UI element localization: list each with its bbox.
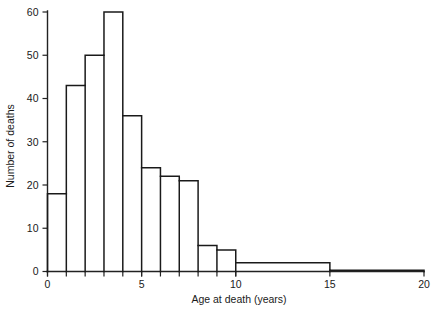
y-tick-label: 50 bbox=[27, 49, 39, 61]
x-tick-label: 15 bbox=[324, 278, 336, 290]
y-axis-title: Number of deaths bbox=[4, 104, 16, 187]
histogram-bars bbox=[48, 12, 425, 272]
y-tick-label: 10 bbox=[27, 222, 39, 234]
x-tick-label: 5 bbox=[139, 278, 145, 290]
x-tick-label: 0 bbox=[45, 278, 51, 290]
x-tick-label: 10 bbox=[230, 278, 242, 290]
histogram-chart: 0102030405060 05101520 Age at death (yea… bbox=[0, 0, 442, 314]
y-tick-label: 40 bbox=[27, 92, 39, 104]
y-tick-label: 20 bbox=[27, 179, 39, 191]
x-axis-title: Age at death (years) bbox=[191, 293, 286, 305]
histogram-figure: 0102030405060 05101520 Age at death (yea… bbox=[0, 0, 442, 314]
x-tick-label: 20 bbox=[418, 278, 430, 290]
y-axis-ticks: 0102030405060 bbox=[27, 6, 48, 278]
y-tick-label: 60 bbox=[27, 6, 39, 18]
y-tick-label: 0 bbox=[33, 265, 39, 277]
x-axis-ticks: 05101520 bbox=[45, 272, 430, 290]
y-tick-label: 30 bbox=[27, 136, 39, 148]
